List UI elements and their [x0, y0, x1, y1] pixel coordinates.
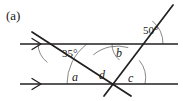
geometry-figure: (a) 35° 50° b a d c	[0, 0, 183, 101]
part-label: (a)	[6, 8, 20, 24]
angle-label-35: 35°	[62, 47, 77, 59]
angle-label-b: b	[116, 46, 122, 61]
angle-label-c: c	[128, 71, 133, 86]
figure-canvas	[0, 0, 183, 101]
arc-d	[93, 46, 128, 55]
angle-label-50: 50°	[143, 24, 158, 36]
left-transversal-line	[32, 32, 131, 96]
angle-label-d: d	[99, 68, 105, 83]
angle-label-a: a	[72, 70, 78, 85]
arc-35	[38, 44, 47, 62]
right-transversal-line	[104, 5, 173, 96]
arc-c	[139, 60, 145, 84]
